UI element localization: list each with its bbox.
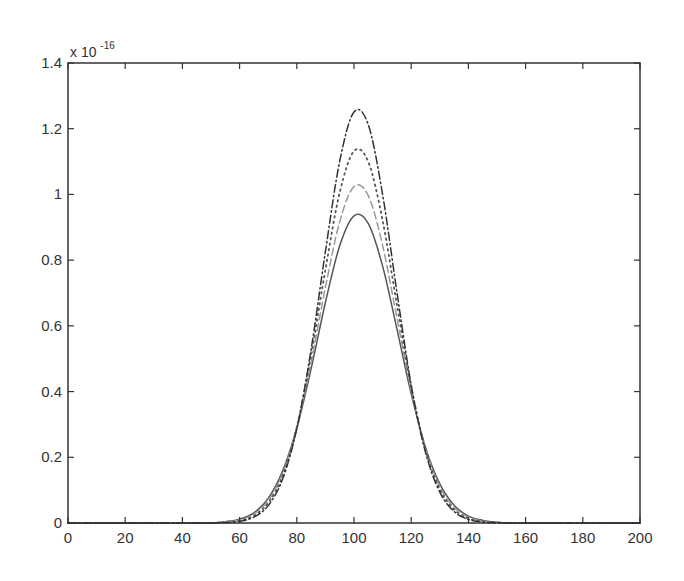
exponent-power: -16	[100, 40, 115, 51]
y-tick-label: 1.4	[41, 54, 62, 71]
series-line-dash-dot	[68, 109, 640, 523]
figure: 020406080100120140160180200 00.20.40.60.…	[0, 0, 684, 581]
y-axis-tick-labels: 00.20.40.60.811.21.4	[41, 54, 62, 531]
series-line-dotted	[68, 149, 640, 523]
y-tick-label: 0.8	[41, 251, 62, 268]
y-tick-label: 1	[54, 185, 62, 202]
x-tick-label: 0	[64, 529, 72, 546]
y-tick-label: 0	[54, 514, 62, 531]
x-tick-label: 120	[399, 529, 424, 546]
y-tick-label: 1.2	[41, 120, 62, 137]
x-tick-label: 180	[570, 529, 595, 546]
series-layer	[68, 109, 640, 523]
y-axis-exponent-label: x 10 -16	[70, 40, 115, 60]
x-tick-label: 60	[231, 529, 248, 546]
y-tick-label: 0.4	[41, 383, 62, 400]
y-tick-label: 0.6	[41, 317, 62, 334]
series-line-solid	[68, 214, 640, 523]
x-tick-label: 200	[627, 529, 652, 546]
axes-box	[68, 63, 640, 523]
ticks-layer	[68, 63, 640, 523]
x-tick-label: 80	[288, 529, 305, 546]
x-tick-label: 160	[513, 529, 538, 546]
x-tick-label: 140	[456, 529, 481, 546]
line-chart: 020406080100120140160180200 00.20.40.60.…	[0, 0, 684, 581]
x-tick-label: 20	[117, 529, 134, 546]
exponent-base: x 10	[70, 44, 97, 60]
x-tick-label: 100	[341, 529, 366, 546]
y-tick-label: 0.2	[41, 448, 62, 465]
x-tick-label: 40	[174, 529, 191, 546]
x-axis-tick-labels: 020406080100120140160180200	[64, 529, 653, 546]
series-line-dashed	[68, 185, 640, 523]
